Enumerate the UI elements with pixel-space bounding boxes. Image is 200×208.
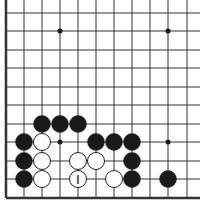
star-point-icon — [58, 29, 63, 34]
black-stone — [34, 116, 51, 133]
white-stone — [34, 153, 51, 170]
black-stone — [16, 153, 33, 170]
black-stone — [124, 171, 141, 188]
black-stone — [124, 153, 141, 170]
white-stone — [88, 153, 105, 170]
black-stone — [160, 171, 177, 188]
star-point-icon — [166, 140, 171, 145]
black-stone — [106, 134, 123, 151]
star-point-icon — [166, 29, 171, 34]
white-stone — [106, 171, 123, 188]
black-stone — [88, 134, 105, 151]
black-stone — [16, 171, 33, 188]
black-stone — [124, 134, 141, 151]
white-stone — [34, 171, 51, 188]
white-stone — [70, 153, 87, 170]
black-stone — [52, 116, 69, 133]
white-stone — [34, 134, 51, 151]
black-stone — [16, 134, 33, 151]
star-point-icon — [58, 140, 63, 145]
move-label: I — [76, 172, 80, 187]
black-stone — [70, 116, 87, 133]
go-board: I — [0, 0, 200, 208]
